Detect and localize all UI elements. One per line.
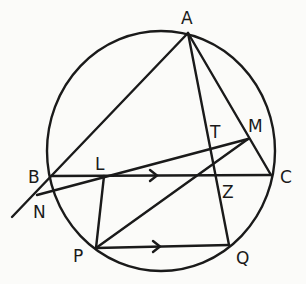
label-t: T	[209, 122, 221, 142]
label-p: P	[73, 246, 83, 266]
label-l: L	[95, 154, 105, 174]
label-m: M	[248, 116, 263, 136]
circumcircle	[47, 31, 275, 271]
line-lp	[96, 176, 104, 248]
label-n: N	[33, 202, 46, 222]
label-a: A	[181, 8, 193, 28]
line-bc	[51, 175, 271, 176]
line-ab-extended	[12, 33, 188, 217]
geometry-diagram: A B C L M N P Q T Z	[0, 0, 306, 284]
diagram-canvas: A B C L M N P Q T Z	[0, 0, 306, 284]
line-mn	[37, 139, 248, 195]
label-c: C	[280, 167, 292, 187]
line-pq	[96, 245, 229, 248]
label-z: Z	[222, 182, 234, 202]
label-b: B	[28, 167, 40, 187]
line-aq	[188, 33, 229, 245]
label-q: Q	[236, 248, 249, 268]
